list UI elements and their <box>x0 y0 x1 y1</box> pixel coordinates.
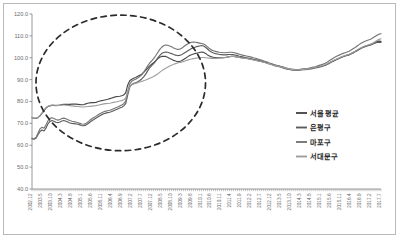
x-tick-label: 2005.6 <box>88 193 93 208</box>
x-tick-label: 2006.4 <box>108 193 113 208</box>
y-tick-label: 120.0 <box>14 11 28 17</box>
x-tick-label: 2010.1 <box>198 193 203 208</box>
x-tick-label: 2015.1 <box>317 193 322 208</box>
legend-label: 은평구 <box>310 123 331 132</box>
x-tick-label: 2013.10 <box>287 193 292 210</box>
x-tick-label: 2016.9 <box>357 193 362 208</box>
x-tick-label: 2009.8 <box>188 193 193 208</box>
x-tick-label: 2005.11 <box>98 193 103 210</box>
x-tick-label: 2012.7 <box>257 193 262 208</box>
chart-plot-area: 120.0110.0100.090.080.070.060.050.040.02… <box>0 0 401 240</box>
x-tick-label: 2009.3 <box>178 193 183 208</box>
legend-item-1: 은평구 <box>296 123 331 132</box>
x-tick-label: 2002.12 <box>28 193 33 210</box>
x-tick-label: 2017.7 <box>377 193 382 208</box>
x-tick-label: 2017.2 <box>367 193 372 208</box>
x-tick-label: 2004.8 <box>68 193 73 208</box>
x-tick-label: 2016.4 <box>347 193 352 208</box>
chart-screenshot: 120.0110.0100.090.080.070.060.050.040.02… <box>0 0 401 240</box>
x-tick-label: 2006.9 <box>118 193 123 208</box>
highlight-ellipse-annotation <box>36 15 206 151</box>
x-tick-label: 2015.11 <box>337 193 342 210</box>
x-tick-label: 2013.5 <box>277 193 282 208</box>
series-line-3 <box>32 39 381 118</box>
x-tick-label: 2003.5 <box>38 193 43 208</box>
x-tick-label: 2011.9 <box>237 193 242 207</box>
legend-label: 서울 평균 <box>310 109 340 118</box>
y-tick-label: 70.0 <box>17 120 28 126</box>
x-tick-label: 2011.4 <box>227 193 232 207</box>
x-tick-label: 2003.10 <box>48 193 53 210</box>
x-tick-label: 2005.1 <box>78 193 83 208</box>
y-tick-label: 40.0 <box>17 186 28 192</box>
legend-label: 마포구 <box>310 138 331 147</box>
x-tick-label: 2008.10 <box>168 193 173 210</box>
x-tick-label: 2012.2 <box>247 193 252 208</box>
housing-price-index-line-chart: 120.0110.0100.090.080.070.060.050.040.02… <box>0 0 401 240</box>
y-tick-label: 80.0 <box>17 98 28 104</box>
x-tick-label: 2012.12 <box>267 193 272 210</box>
legend-item-3: 서대문구 <box>296 152 338 161</box>
y-tick-label: 60.0 <box>17 142 28 148</box>
x-tick-label: 2007.7 <box>138 193 143 208</box>
legend-item-0: 서울 평균 <box>296 109 340 118</box>
y-tick-label: 90.0 <box>17 77 28 83</box>
x-tick-label: 2010.6 <box>207 193 212 208</box>
x-tick-label: 2007.2 <box>128 193 133 208</box>
legend-item-2: 마포구 <box>296 138 331 147</box>
legend-label: 서대문구 <box>310 152 338 161</box>
y-tick-label: 100.0 <box>14 55 28 61</box>
x-tick-label: 2008.5 <box>158 193 163 208</box>
y-tick-label: 110.0 <box>14 33 28 39</box>
x-tick-label: 2014.3 <box>297 193 302 208</box>
x-tick-label: 2010.11 <box>217 193 222 210</box>
x-tick-label: 2007.12 <box>148 193 153 210</box>
x-tick-label: 2015.6 <box>327 193 332 208</box>
y-tick-label: 50.0 <box>17 164 28 170</box>
x-tick-label: 2004.3 <box>58 193 63 208</box>
x-tick-label: 2014.8 <box>307 193 312 208</box>
